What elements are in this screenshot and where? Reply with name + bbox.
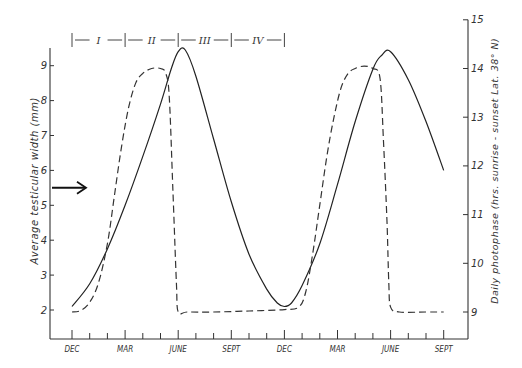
- y-tick-label: 6: [41, 165, 47, 176]
- x-tick-label: DEC: [277, 345, 292, 354]
- x-tick-label: JUNE: [168, 345, 188, 354]
- phase-label: I: [96, 35, 102, 46]
- y2-tick-label: 11: [471, 209, 484, 220]
- phase-label: IV: [251, 35, 265, 46]
- y2-tick-label: 15: [471, 14, 484, 25]
- annotations: [52, 182, 86, 194]
- y-tick-label: 4: [41, 235, 47, 246]
- x-tick-label: SEPT: [222, 345, 240, 354]
- y-tick-label: 3: [41, 270, 47, 281]
- x-tick-label: JUNE: [380, 345, 400, 354]
- y2-tick-label: 13: [471, 112, 484, 123]
- y2-tick-label: 9: [471, 307, 477, 318]
- phase-bar: IIIIIIIV: [72, 33, 284, 47]
- y-tick-label: 5: [41, 200, 47, 211]
- x-tick-label: MAR: [117, 345, 133, 354]
- x-tick-label: MAR: [329, 345, 345, 354]
- y-tick-label: 9: [41, 60, 47, 71]
- x-tick-label: DEC: [64, 345, 79, 354]
- chart: 234567899101112131415DECMARJUNESEPTDECMA…: [0, 0, 522, 368]
- y-axis-label: Average testicular width (mm): [29, 97, 40, 265]
- y-tick-label: 7: [41, 130, 48, 141]
- axes: 234567899101112131415DECMARJUNESEPTDECMA…: [41, 14, 484, 354]
- photophase-line: [72, 66, 444, 314]
- series-group: [72, 48, 444, 314]
- y-tick-label: 2: [41, 305, 47, 316]
- x-tick-label: SEPT: [435, 345, 453, 354]
- y-tick-label: 8: [41, 95, 47, 106]
- phase-label: III: [198, 35, 212, 46]
- y2-axis-label: Daily photophase (hrs. sunrise - sunset …: [489, 38, 500, 304]
- y2-tick-label: 12: [471, 160, 484, 171]
- y2-tick-label: 14: [471, 63, 484, 74]
- y2-tick-label: 10: [471, 258, 484, 269]
- phase-label: II: [147, 35, 157, 46]
